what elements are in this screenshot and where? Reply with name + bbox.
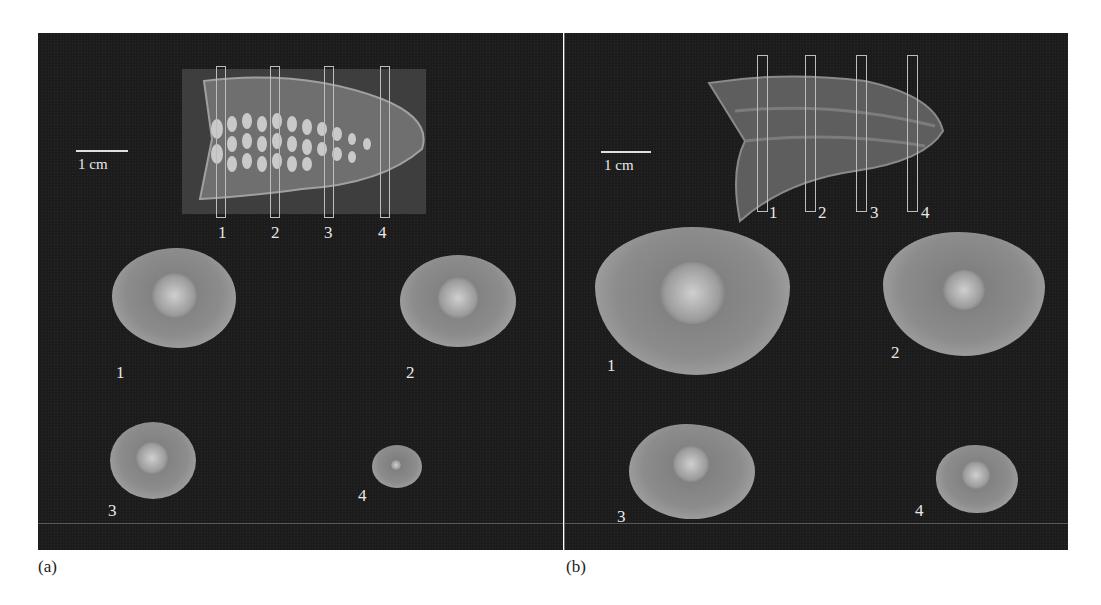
cross-section-2 [400, 255, 516, 347]
cross-section-4 [372, 445, 422, 488]
seed-core [136, 442, 168, 474]
slice-marker-2 [270, 66, 280, 218]
seed-core [152, 273, 197, 318]
panel-b-baseline [565, 523, 1068, 524]
seed-core [438, 277, 478, 319]
cross-section-label: 2 [406, 363, 415, 383]
seed-core [943, 270, 985, 310]
slice-label: 2 [271, 223, 280, 243]
slice-label: 3 [870, 203, 879, 223]
panel-a-label: (a) [38, 557, 57, 577]
seed-core [673, 446, 709, 482]
panel-b: 1 cm 1 2 3 4 1 2 3 4 [564, 33, 1068, 550]
slice-label: 4 [921, 203, 930, 223]
panel-b-label: (b) [566, 557, 586, 577]
slice-marker-1 [757, 55, 768, 212]
seed-core [962, 461, 990, 489]
slice-marker-4 [380, 66, 390, 218]
slice-marker-2 [805, 55, 816, 212]
cross-section-label: 1 [116, 363, 125, 383]
cross-section-label: 3 [617, 507, 626, 527]
cross-section-3 [110, 422, 196, 499]
cross-section-label: 1 [607, 356, 616, 376]
cross-section-label: 4 [358, 486, 367, 506]
slice-marker-1 [216, 66, 226, 218]
panel-a-baseline [38, 523, 563, 524]
cross-section-label: 2 [891, 343, 900, 363]
slice-label: 2 [818, 203, 827, 223]
slice-label: 1 [218, 223, 227, 243]
panel-a: 1 cm 1 2 3 4 1 2 3 [38, 33, 563, 550]
slice-label: 3 [324, 223, 333, 243]
seed-core [391, 460, 401, 470]
cross-section-label: 4 [915, 501, 924, 521]
cross-section-4 [936, 445, 1018, 513]
slice-marker-4 [907, 55, 918, 212]
scale-bar [601, 151, 651, 153]
seed-core [660, 262, 725, 324]
scale-bar-label: 1 cm [604, 157, 634, 174]
scale-bar [76, 150, 128, 152]
cross-section-label: 3 [108, 501, 117, 521]
scale-bar-label: 1 cm [78, 156, 108, 173]
slice-marker-3 [856, 55, 867, 212]
slice-marker-3 [324, 66, 334, 218]
slice-label: 4 [378, 223, 387, 243]
slice-label: 1 [769, 203, 778, 223]
cross-section-1 [112, 248, 236, 348]
cross-section-2 [883, 232, 1045, 356]
cross-section-3 [629, 424, 755, 519]
cross-section-1 [595, 227, 790, 375]
